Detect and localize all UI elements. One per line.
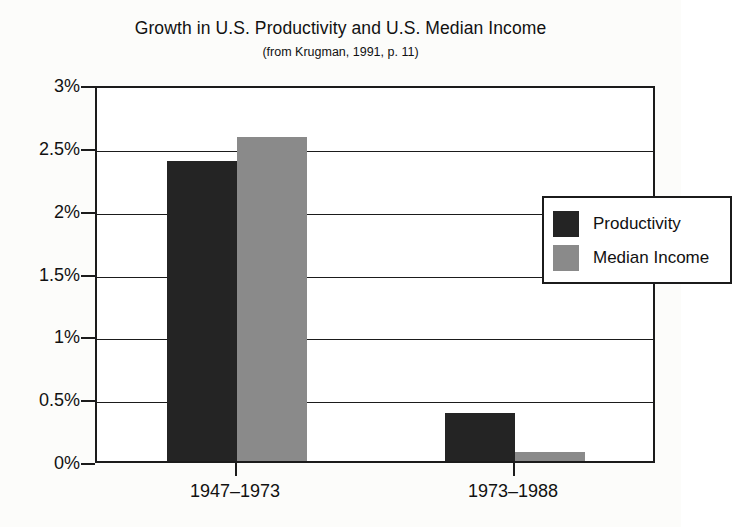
x-axis-tick-mark (513, 463, 515, 476)
title-block: Growth in U.S. Productivity and U.S. Med… (0, 18, 681, 59)
y-axis-tick-mark (81, 337, 95, 339)
gridline (97, 151, 653, 152)
legend-item-productivity: Productivity (553, 207, 730, 241)
bar-median-income-1947–1973 (237, 137, 307, 461)
legend-label-median-income: Median Income (593, 248, 709, 268)
chart-title: Growth in U.S. Productivity and U.S. Med… (0, 18, 681, 39)
bar-median-income-1973–1988 (515, 452, 585, 461)
bar-productivity-1973–1988 (445, 413, 515, 461)
y-axis-tick-mark (81, 149, 95, 151)
y-axis-tick-mark (81, 212, 95, 214)
chart-subtitle: (from Krugman, 1991, p. 11) (0, 45, 681, 59)
y-axis-tick-mark (81, 275, 95, 277)
x-axis-tick-label: 1947–1973 (190, 481, 280, 502)
legend-label-productivity: Productivity (593, 214, 681, 234)
plot-area: Productivity Median Income (95, 86, 655, 463)
x-axis-tick-mark (235, 463, 237, 476)
chart-legend: Productivity Median Income (542, 196, 732, 284)
y-axis-tick-mark (81, 86, 95, 88)
y-axis-tick-mark (81, 400, 95, 402)
y-axis-tick-mark (81, 463, 95, 465)
y-axis-tick-marks (0, 0, 100, 527)
median-income-swatch-icon (553, 245, 579, 271)
x-axis-tick-label: 1973–1988 (468, 481, 558, 502)
bar-productivity-1947–1973 (167, 161, 237, 461)
legend-item-median-income: Median Income (553, 241, 730, 275)
productivity-swatch-icon (553, 211, 579, 237)
